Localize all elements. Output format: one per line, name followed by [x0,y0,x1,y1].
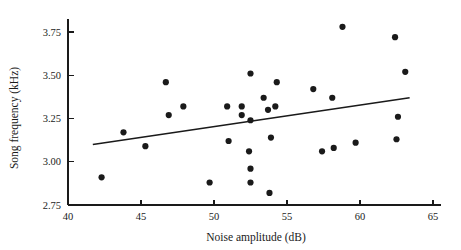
data-point [142,143,148,149]
data-point [224,103,230,109]
y-tick-label: 3.50 [43,70,61,81]
data-point [402,69,408,75]
scatter-plot-figure: 2.753.003.253.503.75 404550556065 Noise … [0,0,461,250]
data-point [329,95,335,101]
x-tick-label: 45 [136,211,147,222]
data-point [120,129,126,135]
x-tick-label: 65 [428,211,439,222]
data-point [247,166,253,172]
y-axis-ticks: 2.753.003.253.503.75 [43,27,74,211]
x-tick-label: 55 [282,211,293,222]
data-point [226,138,232,144]
y-axis-title: Song frequency (kHz) [8,67,21,169]
data-point [319,148,325,154]
data-point [266,190,272,196]
x-tick-label: 60 [355,211,366,222]
regression-line [93,98,410,145]
data-point [247,179,253,185]
y-tick-label: 3.25 [43,113,61,124]
data-point [246,148,252,154]
data-point [274,79,280,85]
data-point [268,134,274,140]
data-point [98,174,104,180]
data-point [166,112,172,118]
data-point [207,179,213,185]
x-axis-ticks: 404550556065 [63,200,439,222]
x-axis-title: Noise amplitude (dB) [206,231,306,244]
data-point [392,34,398,40]
data-point [265,107,271,113]
x-tick-label: 50 [209,211,220,222]
data-point [331,145,337,151]
x-tick-label: 40 [63,211,74,222]
data-point [261,95,267,101]
y-tick-label: 3.75 [43,27,61,38]
data-point [239,103,245,109]
data-point [395,114,401,120]
data-point [272,103,278,109]
y-tick-label: 3.00 [43,156,61,167]
data-point [247,70,253,76]
data-point [163,79,169,85]
data-point [239,112,245,118]
data-point [339,24,345,30]
data-point [393,136,399,142]
data-point [353,140,359,146]
y-tick-label: 2.75 [43,200,61,211]
data-point [310,86,316,92]
plot-canvas: 2.753.003.253.503.75 404550556065 Noise … [0,0,461,250]
data-point [180,103,186,109]
data-points-group [98,24,408,196]
